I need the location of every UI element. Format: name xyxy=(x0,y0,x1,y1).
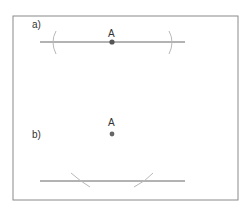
panel-b-arc-right xyxy=(134,173,153,187)
geometry-construction-diagram: a) A b) A xyxy=(0,0,249,212)
panel-a-point-label: A xyxy=(108,28,115,39)
panel-b-arc-left xyxy=(71,173,90,187)
panel-b-point xyxy=(110,132,115,137)
panel-b: b) A xyxy=(32,117,185,187)
diagram-frame xyxy=(13,16,238,200)
panel-a-point xyxy=(109,39,114,44)
panel-a: a) A xyxy=(32,19,185,54)
panel-b-point-label: A xyxy=(108,117,115,128)
panel-b-label: b) xyxy=(32,129,41,140)
panel-a-label: a) xyxy=(32,19,41,30)
